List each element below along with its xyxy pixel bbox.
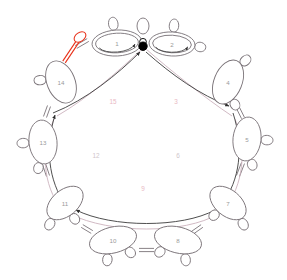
node-label-11: 11 — [62, 200, 69, 207]
rim-link-13-14 — [43, 105, 47, 116]
node-7[interactable] — [197, 180, 261, 242]
chord-label-6: 6 — [176, 152, 180, 159]
chord-label-9: 9 — [141, 185, 145, 192]
node-label-5: 5 — [245, 136, 249, 143]
highlighted-red-loop-stem — [63, 40, 77, 61]
highlight-edge-layer — [63, 30, 88, 63]
node-label-4: 4 — [226, 79, 230, 86]
node-label-14: 14 — [58, 79, 65, 86]
node-1-loop-1 — [108, 17, 118, 30]
node-label-10: 10 — [110, 237, 117, 244]
node-label-7: 7 — [226, 200, 230, 207]
node-2-loop-1 — [169, 19, 179, 32]
root-vertex-layer — [139, 38, 147, 50]
rim-link-7-8 — [191, 225, 201, 232]
node-10-loop-1 — [101, 253, 113, 267]
root-vertex[interactable] — [139, 42, 147, 50]
node-13[interactable] — [15, 119, 60, 176]
node-label-1: 1 — [115, 40, 119, 47]
chord-label-12: 12 — [92, 152, 100, 159]
node-label-13: 13 — [40, 139, 47, 146]
highlighted-red-loop-loop — [72, 30, 88, 45]
node-1[interactable] — [91, 16, 143, 57]
chord-label-15: 15 — [109, 98, 117, 105]
rim-link-13-14 — [47, 107, 51, 118]
node-4[interactable] — [206, 47, 259, 111]
node-label-8: 8 — [176, 237, 180, 244]
node-2-loop-2 — [195, 42, 206, 52]
node-13-loop-1 — [17, 138, 30, 149]
node-11[interactable] — [33, 180, 97, 242]
highlighted-red-loop-stem — [65, 42, 79, 63]
chord-label-3: 3 — [174, 98, 178, 105]
node-2[interactable] — [148, 18, 207, 58]
ring-diagram-svg: 124578101113141536912 — [0, 0, 287, 280]
loop-top-center — [137, 18, 149, 34]
node-8-loop-1 — [179, 253, 192, 267]
node-5-loop-1 — [261, 135, 274, 146]
nodes-layer — [15, 16, 275, 269]
dark-arc-9 — [76, 210, 215, 224]
extra-loops-layer — [137, 18, 149, 34]
diagram-canvas: 124578101113141536912 — [0, 0, 287, 280]
node-label-2: 2 — [170, 41, 174, 48]
